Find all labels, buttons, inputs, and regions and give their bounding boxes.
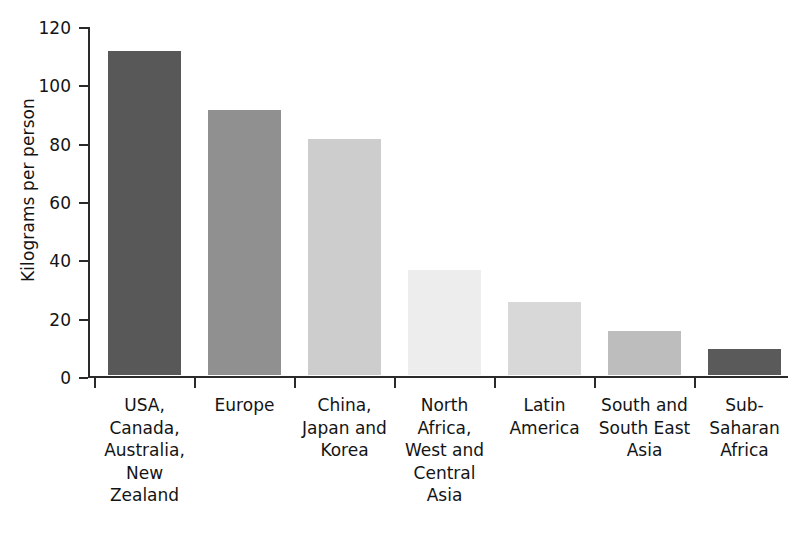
x-axis-label-line: Asia (395, 484, 494, 507)
y-axis-tick-mark: 120 (79, 27, 88, 29)
x-axis-label-line: America (495, 417, 594, 440)
x-axis-label: China,Japan andKorea (295, 394, 394, 462)
plot-area: 120100806040200 (88, 27, 788, 377)
y-axis-tick-mark: 80 (79, 144, 88, 146)
y-axis-tick-mark: 40 (79, 260, 88, 262)
y-axis-tick-label: 20 (49, 310, 71, 330)
bar (108, 51, 181, 375)
x-axis-line (88, 376, 788, 378)
x-axis-label-line: Japan and (295, 417, 394, 440)
x-axis-label-line: Canada, (95, 417, 194, 440)
y-axis-title: Kilograms per person (10, 0, 46, 380)
bar (208, 110, 281, 375)
y-axis-tick-mark: 0 (79, 377, 88, 379)
x-axis-tick-mark (294, 378, 296, 388)
x-axis-label-line: Australia, (95, 439, 194, 462)
bar (408, 270, 481, 375)
y-axis-tick-mark: 20 (79, 319, 88, 321)
x-axis-label: Europe (195, 394, 294, 417)
x-axis-label: NorthAfrica,West andCentralAsia (395, 394, 494, 507)
x-axis-tick-mark (394, 378, 396, 388)
x-axis-label-line: West and (395, 439, 494, 462)
x-axis-label-line: Zealand (95, 484, 194, 507)
x-axis-label: South andSouth EastAsia (595, 394, 694, 462)
x-axis-labels: USA,Canada,Australia,NewZealandEuropeChi… (88, 394, 788, 529)
x-axis-label-line: Sub- (695, 394, 794, 417)
x-axis-label-line: Asia (595, 439, 694, 462)
y-axis-tick-label: 40 (49, 251, 71, 271)
bar (508, 302, 581, 375)
x-axis-tick-mark (594, 378, 596, 388)
bar (308, 139, 381, 375)
y-axis-tick-label: 80 (49, 135, 71, 155)
x-axis-label-line: Central (395, 462, 494, 485)
bar (608, 331, 681, 375)
x-axis-label: Sub-SaharanAfrica (695, 394, 794, 462)
bar (708, 349, 781, 375)
y-axis-tick-label: 100 (39, 76, 71, 96)
x-axis-label-line: Latin (495, 394, 594, 417)
x-axis-tick-mark (694, 378, 696, 388)
x-axis-tick-mark (94, 378, 96, 388)
x-axis-label-line: Korea (295, 439, 394, 462)
x-axis-label-line: Africa, (395, 417, 494, 440)
y-axis-line (88, 27, 90, 378)
y-axis-tick-mark: 100 (79, 85, 88, 87)
x-axis-label-line: South and (595, 394, 694, 417)
x-axis-tick-mark (494, 378, 496, 388)
x-axis-label-line: New (95, 462, 194, 485)
x-axis-label-line: Europe (195, 394, 294, 417)
y-axis-tick-label: 120 (39, 18, 71, 38)
bar-chart: Kilograms per person 120100806040200 USA… (0, 0, 798, 533)
x-axis-label: LatinAmerica (495, 394, 594, 439)
x-axis-label-line: Saharan (695, 417, 794, 440)
x-axis-label: USA,Canada,Australia,NewZealand (95, 394, 194, 507)
y-axis-tick-mark: 60 (79, 202, 88, 204)
x-axis-label-line: Africa (695, 439, 794, 462)
x-axis-label-line: South East (595, 417, 694, 440)
y-axis-tick-label: 60 (49, 193, 71, 213)
y-axis-tick-label: 0 (60, 368, 71, 388)
x-axis-label-line: USA, (95, 394, 194, 417)
x-axis-label-line: China, (295, 394, 394, 417)
x-axis-tick-mark (194, 378, 196, 388)
y-axis-title-text: Kilograms per person (18, 98, 38, 282)
x-axis-label-line: North (395, 394, 494, 417)
